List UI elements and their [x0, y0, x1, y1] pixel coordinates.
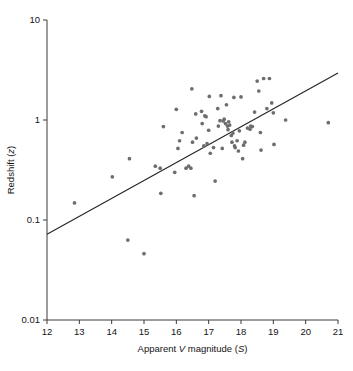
- data-point: [232, 96, 236, 100]
- data-point: [284, 118, 288, 122]
- data-point: [235, 139, 239, 143]
- data-point: [241, 157, 245, 161]
- data-point: [222, 117, 226, 121]
- data-point: [259, 131, 263, 135]
- x-tick-label: 13: [74, 326, 85, 337]
- data-point: [192, 194, 196, 198]
- data-point: [207, 128, 211, 132]
- data-point: [128, 157, 132, 161]
- axis-spines: [47, 20, 338, 320]
- data-point: [176, 147, 180, 151]
- data-point: [207, 95, 211, 99]
- data-point: [194, 112, 198, 116]
- data-point: [218, 119, 222, 123]
- data-point: [162, 125, 166, 129]
- data-points: [73, 77, 331, 256]
- data-point: [250, 125, 254, 129]
- data-point: [243, 140, 247, 144]
- data-point: [195, 136, 199, 140]
- data-point: [158, 166, 162, 170]
- y-tick-label: 1: [35, 114, 40, 125]
- data-point: [126, 238, 130, 242]
- data-point: [213, 179, 217, 183]
- data-point: [110, 175, 114, 179]
- x-axis-title: Apparent V magnitude (S): [138, 343, 248, 354]
- x-tick-label: 20: [300, 326, 311, 337]
- x-tick-label: 15: [139, 326, 150, 337]
- data-point: [230, 140, 234, 144]
- data-point: [189, 166, 193, 170]
- data-point: [272, 143, 276, 147]
- x-tick-label: 19: [268, 326, 279, 337]
- data-point: [262, 77, 266, 81]
- x-tick-label: 12: [42, 326, 53, 337]
- data-point: [217, 124, 221, 128]
- fit-line: [47, 73, 338, 234]
- y-tick-label: 10: [29, 14, 40, 25]
- data-point: [227, 120, 231, 124]
- y-axis-title: Redshift (z): [5, 146, 16, 195]
- x-tick-label: 21: [333, 326, 344, 337]
- data-point: [233, 146, 237, 150]
- x-tick-label: 14: [106, 326, 117, 337]
- x-tick-label: 18: [236, 326, 247, 337]
- axis-labels: Apparent V magnitude (S)Redshift (z): [5, 146, 247, 354]
- axes: 0.010.111012131415161718192021: [22, 14, 344, 336]
- data-point: [225, 103, 229, 107]
- data-point: [226, 128, 230, 132]
- regression-line: [47, 73, 338, 234]
- data-point: [255, 79, 259, 83]
- data-point: [237, 149, 241, 153]
- data-point: [173, 170, 177, 174]
- data-point: [268, 77, 272, 81]
- data-point: [220, 147, 224, 151]
- data-point: [253, 110, 257, 114]
- data-point: [265, 107, 269, 111]
- x-tick-label: 16: [171, 326, 182, 337]
- data-point: [238, 129, 242, 133]
- data-point: [271, 111, 275, 115]
- data-point: [159, 191, 163, 195]
- data-point: [200, 110, 204, 114]
- data-point: [219, 94, 223, 98]
- data-point: [216, 107, 220, 111]
- data-point: [73, 201, 77, 205]
- data-point: [212, 146, 216, 150]
- data-point: [228, 123, 232, 127]
- figure-container: 0.010.111012131415161718192021 Apparent …: [0, 0, 353, 371]
- y-tick-label: 0.1: [27, 214, 40, 225]
- scatter-plot: 0.010.111012131415161718192021 Apparent …: [0, 0, 353, 371]
- data-point: [202, 144, 206, 148]
- data-point: [200, 122, 204, 126]
- data-point: [153, 164, 157, 168]
- data-point: [259, 148, 263, 152]
- data-point: [190, 87, 194, 91]
- data-point: [208, 151, 212, 155]
- data-point: [178, 139, 182, 143]
- data-point: [270, 101, 274, 105]
- data-point: [326, 121, 330, 125]
- data-point: [231, 131, 235, 135]
- data-point: [180, 131, 184, 135]
- data-point: [204, 115, 208, 119]
- data-point: [205, 142, 209, 146]
- data-point: [191, 140, 195, 144]
- data-point: [174, 107, 178, 111]
- data-point: [239, 95, 243, 99]
- x-tick-label: 17: [203, 326, 214, 337]
- data-point: [257, 89, 261, 93]
- y-tick-label: 0.01: [22, 314, 41, 325]
- data-point: [142, 252, 146, 256]
